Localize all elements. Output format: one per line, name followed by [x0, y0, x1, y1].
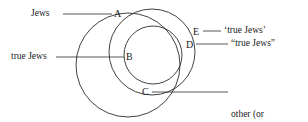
label-double-quoted-true-jews: “true Jews”: [231, 38, 275, 49]
point-label-b: B: [126, 51, 133, 62]
label-jews: Jews: [31, 8, 49, 19]
label-other-nominal-jews: other (or nominal) Jews: [231, 85, 286, 122]
point-label-d: D: [186, 39, 193, 50]
label-single-quoted-true-jews: ‘true Jews’: [224, 25, 266, 36]
point-label-e: E: [193, 26, 199, 37]
venn-diagram-figure: Jews true Jews ‘true Jews’ “true Jews” o…: [0, 0, 308, 122]
point-label-c: C: [142, 86, 149, 97]
label-other-nominal-jews-line1: other (or: [231, 109, 286, 121]
label-true-jews: true Jews: [11, 51, 47, 62]
point-label-a: A: [114, 8, 121, 19]
